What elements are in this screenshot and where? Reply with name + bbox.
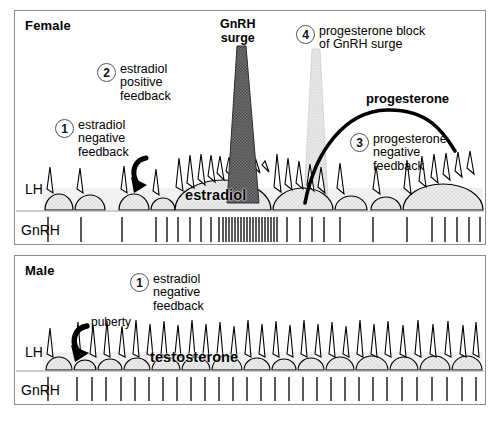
female-panel: Female LH GnRH — [14, 10, 486, 245]
progesterone-label: progesterone — [366, 92, 449, 105]
callout-4-female: 4 progesterone block of GnRH surge — [296, 25, 425, 52]
gnrh-surge-triangle — [227, 46, 259, 203]
female-gnrh-pulses — [48, 217, 480, 242]
callout-2-female: 2 estradiol positive feedback — [97, 63, 171, 103]
female-estradiol-arrow — [131, 158, 147, 193]
callout-1-female-number: 1 — [55, 119, 74, 138]
callout-1-female-text: estradiol negative feedback — [78, 119, 129, 159]
male-gnrh-pulses — [48, 377, 476, 401]
male-traces-svg — [15, 256, 485, 404]
callout-2-female-number: 2 — [97, 63, 116, 82]
callout-3-female-text: progesterone negative feedback — [373, 133, 447, 173]
male-panel: Male LH GnRH — [14, 255, 486, 405]
gnrh-surge-label: GnRH surge — [220, 17, 255, 45]
figure-root: Female LH GnRH — [0, 0, 498, 424]
callout-1-male-number: 1 — [130, 273, 149, 292]
callout-1-male-text: estradiol negative feedback — [153, 273, 204, 313]
puberty-label: puberty — [91, 316, 131, 329]
callout-4-female-number: 4 — [296, 25, 315, 44]
callout-1-male: 1 estradiol negative feedback — [130, 273, 204, 313]
callout-1-female: 1 estradiol negative feedback — [55, 119, 129, 159]
callout-3-female: 3 progesterone negative feedback — [350, 133, 447, 173]
callout-4-female-text: progesterone block of GnRH surge — [319, 25, 425, 52]
callout-2-female-text: estradiol positive feedback — [120, 63, 171, 103]
callout-3-female-number: 3 — [350, 133, 369, 152]
estradiol-label: estradiol — [185, 187, 246, 203]
testosterone-label: testosterone — [150, 349, 238, 365]
